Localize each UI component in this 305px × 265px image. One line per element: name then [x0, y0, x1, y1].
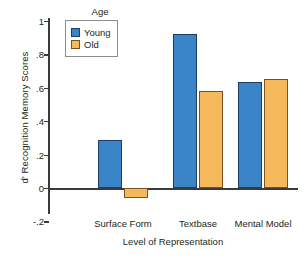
bar-mental-model-old [264, 79, 288, 188]
x-tick-label: Textbase [179, 218, 217, 229]
y-tick-mark [44, 21, 49, 22]
y-tick-mark [44, 121, 49, 122]
x-tick-label: Surface Form [94, 218, 152, 229]
y-tick-mark [44, 54, 49, 55]
bar-surface-form-old [124, 188, 148, 198]
plot-area: 1.8.6.4.20-.2 Surface FormTextbaseMental… [48, 18, 298, 214]
x-axis-title: Level of Representation [48, 236, 298, 247]
y-tick-label: 1 [39, 16, 44, 27]
bar-chart: d' Recognition Memory Scores Age Young O… [0, 0, 305, 265]
y-axis-line [48, 18, 50, 214]
legend-title: Age [60, 6, 140, 17]
y-tick-label: 0 [39, 183, 44, 194]
bar-textbase-old [199, 91, 223, 188]
y-tick-label: .6 [36, 82, 44, 93]
bar-mental-model-young [238, 82, 262, 188]
y-tick-mark [44, 221, 49, 222]
x-tick-label: Mental Model [234, 218, 291, 229]
y-tick-mark [44, 188, 49, 189]
y-axis-title: d' Recognition Memory Scores [19, 28, 30, 208]
y-tick-mark [44, 155, 49, 156]
y-tick-label: .2 [36, 149, 44, 160]
y-tick-label: .4 [36, 116, 44, 127]
zero-baseline [48, 188, 298, 190]
bar-surface-form-young [98, 140, 122, 188]
y-tick-label: .8 [36, 49, 44, 60]
y-tick-label: -.2 [33, 216, 44, 227]
y-tick-mark [44, 88, 49, 89]
bar-textbase-young [173, 34, 197, 188]
